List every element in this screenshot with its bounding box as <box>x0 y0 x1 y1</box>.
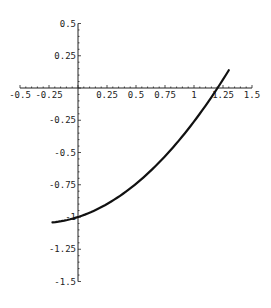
y-tick-label: 0.5 <box>60 19 76 29</box>
chart-area: -0.5-0.250.250.50.7511.251.50.50.25-0.25… <box>0 0 271 308</box>
y-tick-label: -0.5 <box>54 148 76 158</box>
y-tick-label: -0.25 <box>49 115 76 125</box>
y-tick-label: -1.25 <box>49 244 76 254</box>
y-tick-label: -1.5 <box>54 277 76 287</box>
x-tick-label: 0.25 <box>96 90 118 100</box>
y-tick-label: -0.75 <box>49 180 76 190</box>
x-tick-label: 1 <box>191 90 196 100</box>
x-tick-label: 0.75 <box>154 90 176 100</box>
plot-svg: -0.5-0.250.250.50.7511.251.50.50.25-0.25… <box>0 0 271 308</box>
x-tick-label: -0.25 <box>35 90 62 100</box>
y-tick-label: 0.25 <box>54 51 76 61</box>
x-tick-label: 0.5 <box>128 90 144 100</box>
x-tick-label: 1.5 <box>244 90 260 100</box>
x-tick-label: -0.5 <box>9 90 31 100</box>
